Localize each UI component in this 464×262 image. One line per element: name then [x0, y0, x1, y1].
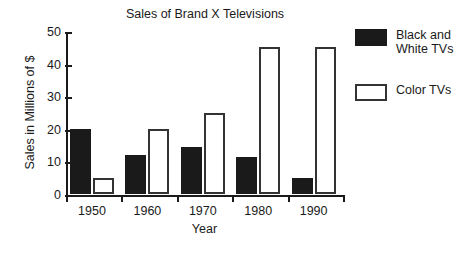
y-axis-line	[66, 32, 68, 197]
bar-1990-series-2[interactable]	[315, 47, 336, 194]
y-tick-mark-50	[65, 32, 72, 34]
x-tick-mark-1980	[288, 195, 290, 202]
legend-swatch-icon-color-tvs	[355, 84, 387, 101]
y-tick-label-30: 30	[47, 91, 61, 104]
x-tick-label-1950: 1950	[78, 204, 106, 218]
y-tick-label-10: 10	[47, 156, 61, 169]
x-tick-mark-1960	[177, 195, 179, 202]
bar-1970-series-2[interactable]	[204, 113, 225, 195]
x-tick-mark-1990	[343, 195, 345, 202]
x-tick-label-1960: 1960	[133, 204, 161, 218]
chart-title: Sales of Brand X Televisions	[60, 7, 350, 22]
y-axis-title: Sales in Millions of $	[23, 33, 38, 193]
bar-1990-series-1[interactable]	[292, 178, 313, 194]
legend-entry-color-tvs[interactable]: Color TVs	[355, 83, 451, 101]
y-tick-mark-30	[65, 97, 72, 99]
x-tick-mark-origin	[66, 195, 68, 202]
x-axis-line	[66, 195, 343, 197]
bar-1970-series-1[interactable]	[181, 147, 202, 194]
y-tick-label-40: 40	[47, 58, 61, 71]
y-tick-label-20: 20	[47, 123, 61, 136]
legend-label-black-and-white-tvs: Black andWhite TVs	[396, 28, 453, 56]
bar-1980-series-2[interactable]	[259, 47, 280, 194]
x-tick-label-1980: 1980	[244, 204, 272, 218]
y-tick-mark-40	[65, 65, 72, 67]
bar-1950-series-1[interactable]	[70, 129, 91, 194]
bar-chart-figure: Sales of Brand X Televisions 01020304050…	[0, 0, 464, 262]
bar-1950-series-2[interactable]	[93, 178, 114, 194]
y-tick-label-0: 0	[54, 189, 61, 202]
legend-entry-black-and-white-tvs[interactable]: Black andWhite TVs	[355, 28, 453, 56]
bar-1960-series-1[interactable]	[125, 155, 146, 194]
x-tick-mark-1950	[121, 195, 123, 202]
legend-label-line-2: White TVs	[396, 42, 453, 56]
x-axis-title: Year	[66, 222, 343, 237]
y-tick-label-50: 50	[47, 26, 61, 39]
x-tick-mark-1970	[232, 195, 234, 202]
x-tick-label-1990: 1990	[300, 204, 328, 218]
plot-area: 01020304050 19501960197019801990	[66, 32, 343, 196]
bar-1980-series-1[interactable]	[236, 157, 257, 194]
legend-label-color-tvs: Color TVs	[396, 83, 451, 97]
legend-label-line-1: Black and	[396, 28, 451, 42]
x-tick-label-1970: 1970	[189, 204, 217, 218]
legend-swatch-icon-black-and-white-tvs	[355, 29, 387, 46]
bar-1960-series-2[interactable]	[148, 129, 169, 194]
